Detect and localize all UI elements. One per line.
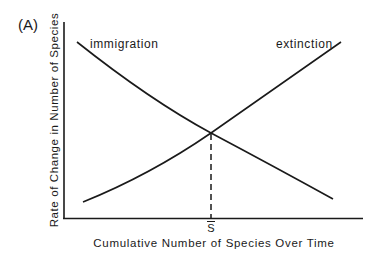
island-biogeography-diagram: (A) immigration extinction S Cumulative … [0, 0, 380, 257]
immigration-label: immigration [90, 37, 159, 51]
extinction-label: extinction [276, 37, 333, 51]
panel-label: (A) [18, 16, 38, 33]
s-hat-label: S [207, 222, 214, 234]
extinction-curve [83, 42, 341, 202]
immigration-curve [77, 42, 333, 199]
x-axis-label: Cumulative Number of Species Over Time [93, 237, 334, 249]
y-axis-label: Rate of Change in Number of Species [48, 13, 60, 228]
